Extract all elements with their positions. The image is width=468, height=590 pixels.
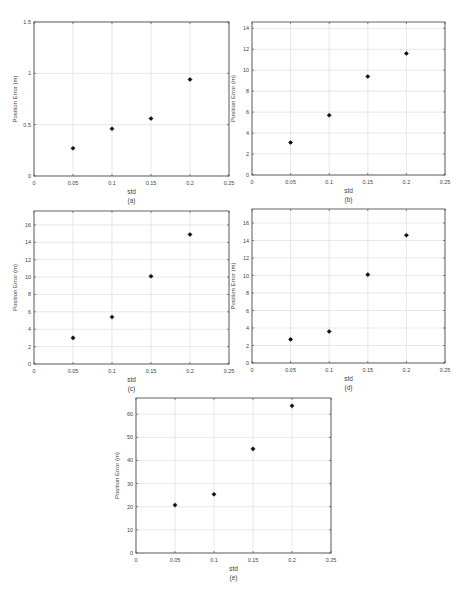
data-markers <box>173 403 295 507</box>
data-markers <box>71 77 193 151</box>
subplot-e: 00.050.10.150.20.250102030405060stdPosit… <box>114 398 336 582</box>
subplot-caption: (d) <box>345 384 353 392</box>
grid-lines <box>252 22 445 175</box>
x-tick-label: 0.15 <box>248 557 259 563</box>
x-tick-label: 0 <box>250 179 253 185</box>
x-tick-label: 0.1 <box>325 367 333 373</box>
y-tick-label: 2 <box>246 343 249 349</box>
y-tick-label: 14 <box>25 239 31 245</box>
y-tick-label: 2 <box>28 344 31 350</box>
x-tick-label: 0.2 <box>186 368 194 374</box>
y-tick-label: 8 <box>246 290 249 296</box>
x-tick-label: 0.05 <box>170 557 181 563</box>
y-tick-label: 0 <box>130 550 133 556</box>
subplot-caption: (c) <box>128 385 136 393</box>
y-tick-label: 16 <box>25 222 31 228</box>
axes-box <box>252 22 445 175</box>
y-tick-label: 12 <box>243 255 249 261</box>
x-tick-label: 0.15 <box>146 180 157 186</box>
y-tick-label: 12 <box>25 257 31 263</box>
y-tick-label: 30 <box>127 481 133 487</box>
y-axis-label: Position Error (m) <box>114 452 120 499</box>
y-tick-label: 20 <box>127 504 133 510</box>
x-tick-label: 0.25 <box>440 367 451 373</box>
axes-box <box>34 211 229 364</box>
y-tick-label: 16 <box>243 220 249 226</box>
y-tick-label: 10 <box>25 274 31 280</box>
y-tick-label: 6 <box>246 308 249 314</box>
y-tick-label: 10 <box>243 273 249 279</box>
y-tick-label: 8 <box>246 88 249 94</box>
x-tick-label: 0.1 <box>108 368 116 374</box>
x-tick-label: 0.25 <box>224 368 235 374</box>
y-tick-label: 2 <box>246 151 249 157</box>
y-tick-label: 0.5 <box>23 122 31 128</box>
y-tick-label: 40 <box>127 457 133 463</box>
y-tick-label: 6 <box>246 109 249 115</box>
data-markers <box>288 51 409 145</box>
y-tick-label: 1 <box>28 70 31 76</box>
y-tick-label: 60 <box>127 411 133 417</box>
y-tick-label: 10 <box>127 527 133 533</box>
subplot-d: 00.050.10.150.20.250246810121416stdPosit… <box>230 209 450 392</box>
subplot-caption: (e) <box>230 574 238 582</box>
y-tick-label: 4 <box>28 326 31 332</box>
y-axis-label: Position Error (m) <box>230 75 236 122</box>
x-tick-label: 0.2 <box>288 557 296 563</box>
x-tick-label: 0.05 <box>285 367 296 373</box>
data-markers <box>71 232 193 340</box>
data-markers <box>288 233 409 342</box>
y-tick-label: 14 <box>243 238 249 244</box>
x-tick-label: 0.05 <box>68 368 79 374</box>
x-tick-label: 0.2 <box>403 179 411 185</box>
y-tick-label: 8 <box>28 291 31 297</box>
figure-canvas: 00.050.10.150.20.2500.511.5stdPosition E… <box>0 0 468 590</box>
x-axis-label: std <box>344 375 353 382</box>
x-tick-label: 0.2 <box>403 367 411 373</box>
subplot-a: 00.050.10.150.20.2500.511.5stdPosition E… <box>12 19 234 205</box>
y-tick-label: 1.5 <box>23 19 31 25</box>
x-tick-label: 0.25 <box>224 180 235 186</box>
y-tick-label: 14 <box>243 25 249 31</box>
y-tick-label: 4 <box>246 325 249 331</box>
x-tick-label: 0.05 <box>68 180 79 186</box>
x-tick-label: 0 <box>250 367 253 373</box>
y-tick-label: 50 <box>127 434 133 440</box>
y-tick-label: 0 <box>28 361 31 367</box>
x-tick-label: 0.25 <box>326 557 337 563</box>
y-axis-label: Position Error (m) <box>12 264 18 311</box>
grid-lines <box>34 211 229 364</box>
y-tick-label: 0 <box>28 173 31 179</box>
y-axis-label: Position Error (m) <box>230 262 236 309</box>
y-tick-label: 0 <box>246 172 249 178</box>
x-axis-label: std <box>229 565 238 572</box>
subplot-caption: (b) <box>345 196 353 204</box>
y-axis-label: Position Error (m) <box>12 75 18 122</box>
subplot-c: 00.050.10.150.20.250246810121416stdPosit… <box>12 211 234 393</box>
y-tick-label: 12 <box>243 46 249 52</box>
x-tick-label: 0 <box>32 368 35 374</box>
y-tick-label: 4 <box>246 130 249 136</box>
x-tick-label: 0.15 <box>362 179 373 185</box>
axes-box <box>34 22 229 176</box>
x-axis-label: std <box>344 187 353 194</box>
x-tick-label: 0 <box>32 180 35 186</box>
x-tick-label: 0.15 <box>146 368 157 374</box>
x-tick-label: 0.15 <box>362 367 373 373</box>
x-tick-label: 0.05 <box>285 179 296 185</box>
grid-lines <box>34 22 229 176</box>
x-tick-label: 0.2 <box>186 180 194 186</box>
y-tick-label: 6 <box>28 309 31 315</box>
x-tick-label: 0.1 <box>108 180 116 186</box>
y-tick-label: 10 <box>243 67 249 73</box>
axes-box <box>252 209 445 363</box>
subplot-caption: (a) <box>128 197 136 205</box>
x-tick-label: 0.25 <box>440 179 451 185</box>
x-tick-label: 0 <box>134 557 137 563</box>
x-tick-label: 0.1 <box>210 557 218 563</box>
x-axis-label: std <box>127 188 136 195</box>
y-tick-label: 0 <box>246 360 249 366</box>
x-tick-label: 0.1 <box>325 179 333 185</box>
subplot-b: 00.050.10.150.20.2502468101214stdPositio… <box>230 22 450 204</box>
grid-lines <box>136 398 331 553</box>
